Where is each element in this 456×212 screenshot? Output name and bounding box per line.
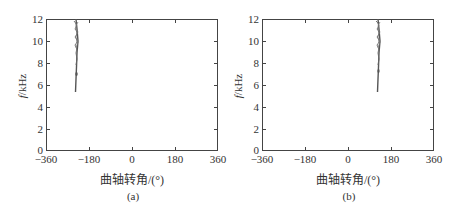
ytick-mark [47, 107, 50, 108]
ytick-12: 12 [29, 14, 43, 25]
ytick-mark [214, 107, 217, 108]
ytick-8: 8 [29, 58, 43, 69]
ytick-mark [263, 63, 266, 64]
contour-plume-b [372, 19, 386, 94]
ytick-2: 2 [29, 124, 43, 135]
xtick-mark [89, 20, 90, 23]
xtick-180: 180 [376, 154, 406, 165]
xtick-mark [175, 20, 176, 23]
xtick-neg360: −360 [31, 154, 61, 165]
ytick-mark [214, 41, 217, 42]
ytick-4: 4 [29, 102, 43, 113]
caption-b: (b) [334, 190, 364, 202]
xtick-mark [175, 147, 176, 150]
y-axis-label: f/kHz [232, 66, 244, 106]
ytick-4: 4 [245, 102, 259, 113]
ytick-mark [430, 129, 433, 130]
xtick-0: 0 [117, 154, 147, 165]
ytick-8: 8 [245, 58, 259, 69]
ytick-mark [430, 41, 433, 42]
xtick-0: 0 [333, 154, 363, 165]
xtick-mark [348, 147, 349, 150]
ytick-12: 12 [245, 14, 259, 25]
contour-plume-a [70, 19, 84, 94]
ytick-6: 6 [245, 80, 259, 91]
xtick-mark [391, 147, 392, 150]
ytick-mark [214, 129, 217, 130]
xtick-mark [132, 20, 133, 23]
xtick-360: 360 [419, 154, 449, 165]
plot-area-b [262, 19, 434, 151]
ytick-10: 10 [245, 36, 259, 47]
ytick-mark [430, 85, 433, 86]
xtick-neg180: −180 [74, 154, 104, 165]
xtick-mark [348, 20, 349, 23]
ytick-mark [47, 85, 50, 86]
xtick-neg360: −360 [247, 154, 277, 165]
ytick-10: 10 [29, 36, 43, 47]
panel-a: 12 10 8 6 4 2 0 −360 −180 0 180 360 f/kH… [0, 0, 228, 212]
xtick-mark [391, 20, 392, 23]
panel-b: 12 10 8 6 4 2 0 −360 −180 0 180 360 f/kH… [228, 0, 456, 212]
ytick-mark [214, 63, 217, 64]
xtick-mark [305, 147, 306, 150]
ytick-mark [47, 129, 50, 130]
ytick-mark [263, 85, 266, 86]
ytick-mark [47, 63, 50, 64]
y-axis-label: f/kHz [16, 66, 28, 106]
xtick-mark [305, 20, 306, 23]
ytick-mark [263, 107, 266, 108]
ytick-6: 6 [29, 80, 43, 91]
ytick-mark [263, 41, 266, 42]
x-axis-label: 曲轴转角/(°) [278, 170, 418, 188]
ytick-mark [430, 107, 433, 108]
ytick-mark [214, 85, 217, 86]
xtick-mark [132, 147, 133, 150]
ytick-mark [263, 129, 266, 130]
ytick-mark [47, 41, 50, 42]
x-axis-label: 曲轴转角/(°) [62, 170, 202, 188]
xtick-180: 180 [160, 154, 190, 165]
ytick-2: 2 [245, 124, 259, 135]
xtick-neg180: −180 [290, 154, 320, 165]
ytick-mark [430, 63, 433, 64]
xtick-mark [89, 147, 90, 150]
caption-a: (a) [118, 190, 148, 202]
